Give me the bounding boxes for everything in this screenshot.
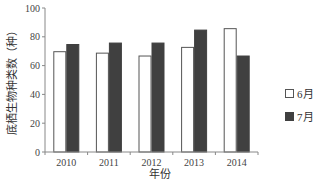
bar-chart: 020406080100 20102011201220132014 底栖生物种类… [0,0,317,182]
x-tick-label: 2011 [99,157,119,168]
bar-2014-1 [237,56,249,152]
legend-label-june: 6月 [297,85,314,101]
bars [54,29,249,152]
legend-swatch-july [285,112,294,121]
y-tick-label: 20 [30,118,40,129]
y-axis: 020406080100 [25,3,45,158]
bar-2014-0 [224,29,236,152]
y-tick-label: 100 [25,3,40,14]
legend-item-july: 7月 [285,109,314,123]
bar-2011-1 [109,43,121,152]
x-tick-label: 2010 [56,157,76,168]
y-tick-label: 0 [35,147,40,158]
y-tick-label: 60 [30,60,40,71]
legend-swatch-june [285,89,294,98]
legend-label-july: 7月 [297,108,314,124]
y-axis-title: 底栖生物种类数（种） [5,25,19,135]
bar-2013-0 [182,47,194,152]
bar-2011-0 [96,53,108,152]
y-tick-label: 40 [30,89,40,100]
legend: 6月 7月 [285,86,314,132]
y-tick-label: 80 [30,31,40,42]
legend-item-june: 6月 [285,86,314,100]
x-axis: 20102011201220132014 [45,152,258,168]
x-tick-label: 2014 [227,157,247,168]
bar-2012-0 [139,56,151,152]
bar-2013-1 [195,30,207,152]
x-tick-label: 2012 [142,157,162,168]
x-axis-title: 年份 [149,167,171,181]
bar-2010-0 [54,52,66,152]
bar-2010-1 [67,45,79,153]
bar-2012-1 [152,43,164,152]
x-tick-label: 2013 [184,157,204,168]
